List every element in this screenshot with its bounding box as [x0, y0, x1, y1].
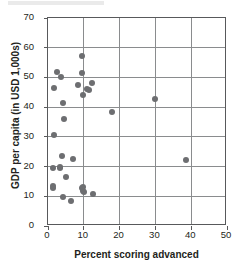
- data-point: [75, 82, 81, 88]
- y-axis-tick: [44, 18, 48, 19]
- data-point: [79, 70, 85, 76]
- gridline-horizontal: [48, 136, 225, 137]
- y-axis-tick: [44, 166, 48, 167]
- x-axis-tick-label: 40: [185, 230, 196, 240]
- gridline-horizontal: [48, 166, 225, 167]
- x-axis-tick-label: 0: [44, 230, 49, 240]
- scatter-plot-figure: 010203040506070 01020304050 GDP per capi…: [0, 0, 238, 270]
- data-point: [80, 92, 86, 98]
- plot-area: [47, 17, 226, 225]
- data-point: [68, 198, 74, 204]
- data-point: [59, 153, 65, 159]
- x-axis-tick-label: 30: [149, 230, 160, 240]
- data-point: [70, 156, 76, 162]
- gridline-horizontal: [48, 77, 225, 78]
- y-axis-tick-label: 0: [29, 220, 34, 230]
- gridline-horizontal: [48, 196, 225, 197]
- data-point: [60, 194, 66, 200]
- gridline-horizontal: [48, 107, 225, 108]
- gridline-vertical: [191, 18, 192, 224]
- data-point: [57, 165, 63, 171]
- gridline-vertical: [155, 18, 156, 224]
- data-point: [58, 74, 64, 80]
- data-point: [51, 85, 57, 91]
- data-point: [79, 53, 85, 59]
- x-axis-tick-labels: 01020304050: [47, 230, 226, 244]
- y-axis-tick-label: 60: [23, 42, 34, 52]
- y-axis-tick: [44, 77, 48, 78]
- y-axis-tick: [44, 136, 48, 137]
- y-axis-tick-label: 10: [23, 190, 34, 200]
- y-axis-title: GDP per capita (in USD 1,000s): [10, 16, 21, 216]
- x-axis-title: Percent scoring advanced: [47, 249, 226, 260]
- data-point: [152, 96, 158, 102]
- y-axis-tick: [44, 107, 48, 108]
- y-axis-tick-label: 40: [23, 101, 34, 111]
- y-axis-tick-label: 20: [23, 161, 34, 171]
- scan-artifact: [8, 1, 104, 5]
- gridline-vertical: [119, 18, 120, 224]
- data-point: [51, 132, 57, 138]
- x-axis-tick-label: 10: [78, 230, 89, 240]
- data-point: [81, 189, 87, 195]
- data-point: [61, 116, 67, 122]
- data-point: [90, 191, 96, 197]
- x-axis-tick-label: 50: [221, 230, 232, 240]
- data-point: [109, 109, 115, 115]
- data-point: [63, 174, 69, 180]
- data-point: [50, 165, 56, 171]
- x-axis-tick-label: 20: [113, 230, 124, 240]
- data-point: [89, 80, 95, 86]
- y-axis-tick: [44, 196, 48, 197]
- y-axis-tick: [44, 47, 48, 48]
- data-point: [60, 100, 66, 106]
- y-axis-tick-label: 70: [23, 12, 34, 22]
- y-axis-tick-label: 30: [23, 131, 34, 141]
- y-axis-title-container: GDP per capita (in USD 1,000s): [0, 0, 16, 270]
- data-point: [86, 87, 92, 93]
- data-point: [183, 157, 189, 163]
- gridline-horizontal: [48, 47, 225, 48]
- data-point: [50, 183, 56, 189]
- y-axis-tick-label: 50: [23, 71, 34, 81]
